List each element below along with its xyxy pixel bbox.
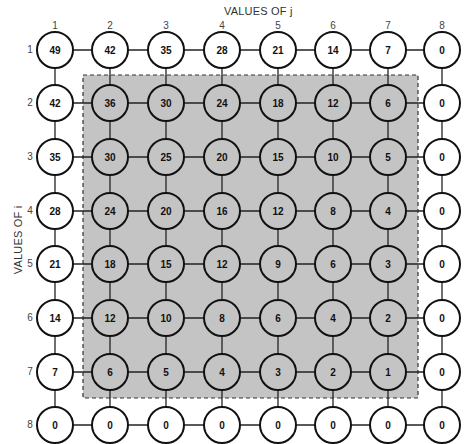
node-i5-j2: 18	[91, 245, 129, 283]
node-i2-j4: 24	[203, 84, 241, 122]
node-i6-j5: 6	[259, 299, 297, 337]
node-i1-j3: 35	[147, 31, 185, 69]
node-i6-j1: 14	[36, 299, 74, 337]
node-i4-j4: 16	[203, 192, 241, 230]
node-i3-j5: 15	[259, 138, 297, 176]
j-tick-8: 8	[434, 20, 450, 31]
node-i2-j1: 42	[36, 84, 74, 122]
j-tick-7: 7	[380, 20, 396, 31]
node-i3-j2: 30	[91, 138, 129, 176]
node-i1-j8: 0	[423, 31, 461, 69]
node-i4-j5: 12	[259, 192, 297, 230]
node-i8-j3: 0	[147, 406, 185, 444]
node-i7-j8: 0	[423, 353, 461, 391]
j-tick-5: 5	[270, 20, 286, 31]
node-i6-j7: 2	[369, 299, 407, 337]
node-i7-j2: 6	[91, 353, 129, 391]
node-i8-j5: 0	[259, 406, 297, 444]
node-i5-j4: 12	[203, 245, 241, 283]
node-i2-j2: 36	[91, 84, 129, 122]
node-i4-j7: 4	[369, 192, 407, 230]
node-i1-j1: 49	[36, 31, 74, 69]
node-i3-j4: 20	[203, 138, 241, 176]
j-tick-2: 2	[102, 20, 118, 31]
node-i3-j8: 0	[423, 138, 461, 176]
node-i7-j5: 3	[259, 353, 297, 391]
node-i6-j2: 12	[91, 299, 129, 337]
j-axis-title: VALUES OF j	[224, 5, 293, 17]
node-i2-j3: 30	[147, 84, 185, 122]
node-i5-j8: 0	[423, 245, 461, 283]
node-i4-j2: 24	[91, 192, 129, 230]
node-i4-j3: 20	[147, 192, 185, 230]
node-i2-j5: 18	[259, 84, 297, 122]
node-i5-j1: 21	[36, 245, 74, 283]
node-i1-j2: 42	[91, 31, 129, 69]
node-i8-j6: 0	[314, 406, 352, 444]
node-i3-j3: 25	[147, 138, 185, 176]
node-i1-j6: 14	[314, 31, 352, 69]
node-i7-j7: 1	[369, 353, 407, 391]
node-i1-j5: 21	[259, 31, 297, 69]
node-i8-j7: 0	[369, 406, 407, 444]
node-i8-j1: 0	[36, 406, 74, 444]
node-i6-j4: 8	[203, 299, 241, 337]
node-i7-j1: 7	[36, 353, 74, 391]
node-i2-j6: 12	[314, 84, 352, 122]
j-tick-6: 6	[325, 20, 341, 31]
node-i8-j4: 0	[203, 406, 241, 444]
node-i7-j3: 5	[147, 353, 185, 391]
node-i6-j3: 10	[147, 299, 185, 337]
node-i5-j6: 6	[314, 245, 352, 283]
node-i1-j7: 7	[369, 31, 407, 69]
j-tick-1: 1	[47, 20, 63, 31]
node-i3-j6: 10	[314, 138, 352, 176]
shaded-region	[83, 75, 418, 398]
node-i7-j6: 2	[314, 353, 352, 391]
node-i3-j7: 5	[369, 138, 407, 176]
node-i6-j8: 0	[423, 299, 461, 337]
node-i4-j8: 0	[423, 192, 461, 230]
node-i3-j1: 35	[36, 138, 74, 176]
node-i5-j3: 15	[147, 245, 185, 283]
node-i2-j7: 6	[369, 84, 407, 122]
node-i4-j6: 8	[314, 192, 352, 230]
node-i7-j4: 4	[203, 353, 241, 391]
j-tick-4: 4	[214, 20, 230, 31]
j-tick-3: 3	[158, 20, 174, 31]
node-i5-j5: 9	[259, 245, 297, 283]
node-i2-j8: 0	[423, 84, 461, 122]
node-i5-j7: 3	[369, 245, 407, 283]
node-i6-j6: 4	[314, 299, 352, 337]
node-i8-j8: 0	[423, 406, 461, 444]
node-i8-j2: 0	[91, 406, 129, 444]
node-i4-j1: 28	[36, 192, 74, 230]
node-i1-j4: 28	[203, 31, 241, 69]
